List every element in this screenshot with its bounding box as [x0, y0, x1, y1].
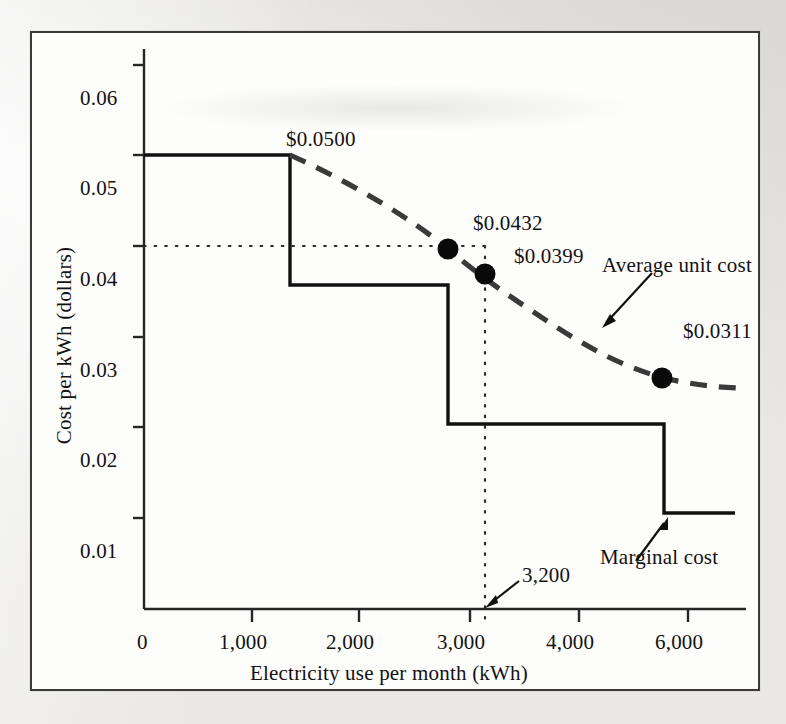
- x-tick-label-6000: 6,000: [655, 630, 703, 655]
- x-tick-label-4000: 4,000: [546, 630, 594, 655]
- y-tick-label-004: 0.04: [80, 267, 118, 292]
- average-unit-cost-label: Average unit cost: [602, 253, 752, 278]
- y-tick-label-006: 0.06: [80, 86, 118, 111]
- y-axis-title-wrapper: Cost per kWh (dollars): [52, 196, 77, 496]
- x-tick-label-3000: 3,000: [437, 630, 485, 655]
- y-tick-label-003: 0.03: [80, 358, 118, 383]
- marginal-cost-step-line: [144, 155, 735, 513]
- y-tick-label-002: 0.02: [80, 448, 118, 473]
- x-tick-label-1000: 1,000: [219, 630, 267, 655]
- data-point-marker-0311: [652, 368, 673, 389]
- x-axis-title: Electricity use per month (kWh): [250, 661, 528, 686]
- chart-plot-area: [32, 33, 758, 689]
- average-unit-cost-arrow: [602, 273, 652, 328]
- y-axis-ticks: [133, 65, 144, 518]
- y-tick-label-001: 0.01: [80, 539, 118, 564]
- marginal-cost-label: Marginal cost: [600, 545, 718, 570]
- point-value-label-0500: $0.0500: [286, 127, 356, 152]
- point-value-label-0311: $0.0311: [683, 319, 752, 344]
- point-value-label-0432: $0.0432: [473, 211, 543, 236]
- x-tick-label-0: 0: [137, 630, 148, 655]
- point-value-label-0399: $0.0399: [514, 244, 584, 269]
- data-point-marker-0432: [438, 239, 459, 260]
- data-point-marker-0399: [475, 264, 496, 285]
- y-tick-label-005: 0.05: [80, 176, 118, 201]
- quantity-arrow: [485, 581, 519, 608]
- x-axis-ticks: [252, 609, 688, 622]
- chart-figure-frame: 0.06 0.05 0.04 0.03 0.02 0.01 0 1,000 2,…: [30, 31, 760, 691]
- quantity-label: 3,200: [522, 563, 570, 588]
- y-axis-title: Cost per kWh (dollars): [52, 247, 76, 444]
- x-tick-label-2000: 2,000: [326, 630, 374, 655]
- figure-page: 0.06 0.05 0.04 0.03 0.02 0.01 0 1,000 2,…: [0, 0, 786, 724]
